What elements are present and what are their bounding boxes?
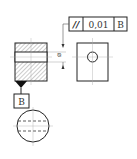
top-view (13, 107, 53, 146)
side-view (72, 38, 113, 85)
datum-label: B (18, 97, 25, 107)
datum-reference: B (117, 20, 124, 30)
technical-drawing: // 0,01 B ⌀ B (0, 0, 137, 159)
tolerance-value: 0,01 (88, 20, 108, 30)
leader-line: ⌀ (47, 24, 69, 69)
datum-feature-symbol: B (14, 81, 29, 108)
feature-control-frame: // 0,01 B (69, 17, 127, 31)
section-view (10, 38, 52, 85)
diameter-symbol: ⌀ (55, 53, 63, 57)
